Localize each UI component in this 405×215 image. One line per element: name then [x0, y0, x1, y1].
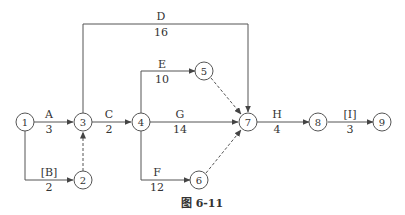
node-3-label: 3: [80, 117, 86, 128]
activity-a-duration: 3: [46, 123, 53, 136]
activity-h-name: H: [272, 108, 282, 121]
node-8-label: 8: [315, 117, 321, 128]
activity-g: G 14: [150, 108, 238, 136]
node-5-label: 5: [201, 66, 207, 77]
node-4: 4: [132, 113, 150, 131]
activity-f-duration: 12: [150, 181, 164, 194]
node-8: 8: [309, 113, 327, 131]
node-1: 1: [16, 113, 34, 131]
activity-e-duration: 10: [155, 73, 169, 86]
node-4-label: 4: [138, 117, 144, 128]
activity-i-name: [I]: [344, 108, 357, 121]
activity-g-duration: 14: [173, 123, 187, 136]
activity-e-name: E: [158, 58, 166, 71]
node-3: 3: [74, 113, 92, 131]
activity-d-duration: 16: [154, 26, 168, 39]
activity-h: H 4: [257, 108, 309, 136]
node-7-label: 7: [245, 117, 251, 128]
activity-a-name: A: [44, 108, 54, 121]
node-5: 5: [195, 62, 213, 80]
node-2-label: 2: [80, 175, 86, 186]
activity-b: [B] 2: [25, 131, 73, 194]
figure-caption: 图 6-11: [181, 197, 223, 210]
activity-d-name: D: [157, 10, 166, 23]
activity-e: E 10: [141, 58, 195, 113]
activity-g-name: G: [176, 108, 185, 121]
node-1-label: 1: [22, 117, 28, 128]
activity-h-duration: 4: [274, 123, 281, 136]
activity-b-duration: 2: [46, 181, 53, 194]
node-9-label: 9: [379, 117, 385, 128]
dummy-6-7: [206, 130, 241, 173]
activity-c: C 2: [92, 108, 131, 136]
activity-c-name: C: [105, 108, 113, 121]
node-9: 9: [373, 113, 391, 131]
node-6-label: 6: [196, 175, 202, 186]
activity-a: A 3: [34, 108, 73, 136]
node-7: 7: [239, 113, 257, 131]
node-6: 6: [190, 171, 208, 189]
activity-f-name: F: [153, 166, 161, 179]
activity-i-duration: 3: [347, 123, 354, 136]
node-2: 2: [74, 171, 92, 189]
dummy-5-7: [211, 78, 241, 114]
activity-f: F 12: [141, 131, 190, 194]
activity-b-name: [B]: [41, 166, 58, 179]
network-diagram: A 3 [B] 2 C 2 D 16 E 10 F 12 G 14: [0, 0, 405, 215]
activity-i: [I] 3: [328, 108, 373, 136]
activity-c-duration: 2: [106, 123, 113, 136]
